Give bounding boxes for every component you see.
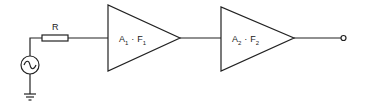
output-terminal-icon: [294, 36, 346, 41]
circuit-diagram: R A1·F1 A2·F2: [0, 0, 365, 107]
ac-source-icon: [21, 56, 39, 74]
amplifier-stage-1: A1·F1: [108, 5, 180, 71]
svg-text:A1·F1: A1·F1: [119, 34, 147, 46]
resistor-label: R: [52, 22, 59, 32]
ground-icon: [24, 74, 36, 100]
amplifier-stage-2: A2·F2: [221, 7, 294, 71]
svg-text:A2·F2: A2·F2: [232, 34, 260, 46]
resistor: R: [42, 22, 68, 41]
